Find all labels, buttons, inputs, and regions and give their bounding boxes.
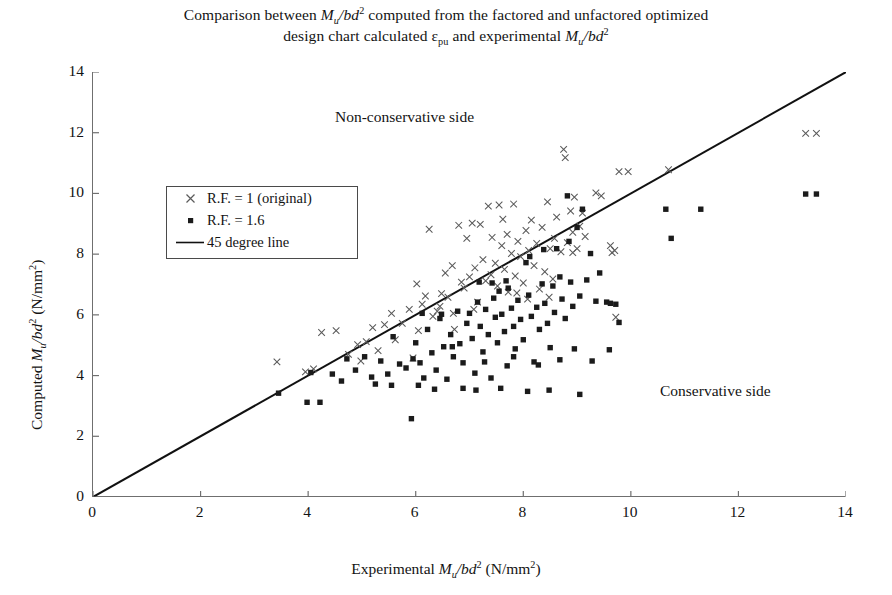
data-point-square [475,299,480,304]
data-point-square [433,367,438,372]
data-point-square [344,356,349,361]
data-point-cross [496,202,503,209]
data-point-cross [523,227,530,234]
data-point-square [607,347,612,352]
legend-item-rf1[interactable]: R.F. = 1 (original) [167,187,357,209]
data-point-square [529,314,534,319]
scatter-chart-figure: Comparison between Mu/bd2 computed from … [0,0,892,595]
chart-title: Comparison between Mu/bd2 computed from … [0,4,892,46]
xlab-var-M: M [439,560,452,577]
data-point-square [417,360,422,365]
data-point-square [409,416,414,421]
data-point-square [503,278,508,283]
data-point-cross [567,208,574,215]
chart-title-line-1: Comparison between Mu/bd2 computed from … [0,4,892,25]
data-point-square [480,349,485,354]
x-tick-label: 14 [825,503,865,521]
plot-canvas [93,72,846,497]
data-point-square [663,207,668,212]
legend-item-rf16[interactable]: R.F. = 1.6 [167,209,357,231]
chart-title-line-2: design chart calculated εpu and experime… [0,25,892,46]
data-point-square [353,367,358,372]
data-point-cross [472,265,479,272]
data-point-square [554,246,559,251]
data-point-cross [553,214,560,221]
data-point-square [330,371,335,376]
data-point-square [473,387,478,392]
line-marker-icon [173,237,207,248]
data-point-square [577,293,582,298]
title-bd: /bd [339,6,359,23]
ylab-bd: /bd [28,324,45,344]
data-point-square [389,383,394,388]
data-point-cross [500,216,507,223]
data-point-square [513,346,518,351]
data-point-square [455,309,460,314]
data-point-square [491,295,496,300]
data-point-square [542,301,547,306]
data-point-square [457,341,462,346]
data-point-cross [449,262,456,269]
data-point-cross [485,203,492,210]
data-point-square [451,354,456,359]
data-point-square [478,324,483,329]
title-var-M: M [321,6,334,23]
data-point-square [547,345,552,350]
y-tick-label: 14 [50,62,84,80]
data-point-square [526,292,531,297]
data-point-square [495,340,500,345]
data-point-square [378,358,383,363]
data-point-square [559,296,564,301]
data-point-square [432,387,437,392]
legend-box: R.F. = 1 (original) R.F. = 1.6 45 degree… [166,186,358,259]
data-point-cross [536,286,543,293]
data-point-square [537,327,542,332]
data-point-cross [547,245,554,252]
data-point-cross [546,294,553,301]
data-point-square [814,191,819,196]
data-point-square [276,390,281,395]
data-point-cross [442,270,449,277]
legend-label-rf1: R.F. = 1 (original) [207,190,312,207]
data-point-square [502,329,507,334]
data-point-square [515,298,520,303]
data-point-square [467,311,472,316]
data-point-cross [611,247,618,254]
data-point-square [546,387,551,392]
data-point-cross [466,274,473,281]
data-point-square [511,324,516,329]
data-point-cross [464,235,471,242]
data-point-square [552,310,557,315]
data-point-cross [539,224,546,231]
data-point-square [317,400,322,405]
data-point-square [472,370,477,375]
square-marker-icon [173,215,207,226]
data-point-square [527,254,532,259]
data-point-square [541,247,546,252]
ylab-var-M: M [28,349,45,362]
data-point-square [416,383,421,388]
data-point-cross [544,199,551,206]
legend-item-45line[interactable]: 45 degree line [167,231,357,253]
data-point-square [493,315,498,320]
data-point-square [308,370,313,375]
legend-label-45line: 45 degree line [207,234,289,251]
data-point-square [397,361,402,366]
reference-45-degree-line [93,72,846,497]
title-epsilon-sub: pu [438,36,448,47]
data-point-square [563,316,568,321]
ylab-sub-u: u [37,344,48,349]
data-point-cross [426,226,433,233]
data-point-square [608,301,613,306]
data-point-cross [458,279,465,286]
annotation-conservative: Conservative side [660,382,771,400]
data-point-square [403,365,408,370]
data-point-cross [813,130,820,137]
x-axis-label: Experimental Mu/bd2 (N/mm2) [0,560,892,578]
data-point-cross [415,327,422,334]
data-point-square [577,392,582,397]
y-axis-label: Computed Mu/bd2 (N/mm2) [28,260,46,430]
data-point-square [616,320,621,325]
x-tick-label: 6 [395,503,435,521]
data-point-square [597,270,602,275]
